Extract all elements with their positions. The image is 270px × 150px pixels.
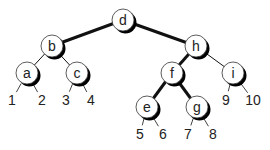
leaf-label: 1 bbox=[8, 92, 16, 108]
tree-node-g: g bbox=[186, 96, 211, 121]
leaf-edge-e-5 bbox=[142, 119, 144, 126]
leaf-label: 2 bbox=[38, 92, 46, 108]
leaf-layer: 12345678910 bbox=[8, 92, 261, 142]
node-label: i bbox=[231, 65, 234, 81]
leaf-edge-i-9 bbox=[228, 85, 230, 92]
node-label: c bbox=[74, 65, 81, 81]
tree-node-e: e bbox=[136, 96, 161, 121]
tree-node-d: d bbox=[112, 9, 137, 34]
node-label: h bbox=[192, 38, 200, 54]
node-layer: dbhacfieg bbox=[16, 9, 247, 121]
node-label: e bbox=[143, 99, 151, 115]
tree-diagram: dbhacfieg 12345678910 bbox=[0, 0, 270, 150]
leaf-edge-layer bbox=[16, 83, 247, 127]
leaf-label: 10 bbox=[245, 92, 261, 108]
leaf-label: 7 bbox=[184, 126, 192, 142]
leaf-label: 4 bbox=[87, 92, 95, 108]
node-label: g bbox=[193, 99, 201, 115]
leaf-label: 9 bbox=[222, 92, 230, 108]
node-label: f bbox=[170, 65, 174, 81]
node-label: b bbox=[48, 38, 56, 54]
leaf-label: 5 bbox=[136, 126, 144, 142]
leaf-edge-a-1 bbox=[16, 83, 21, 92]
node-label: d bbox=[119, 12, 127, 28]
leaf-edge-g-7 bbox=[191, 118, 193, 125]
leaf-label: 3 bbox=[62, 92, 70, 108]
node-label: a bbox=[23, 65, 31, 81]
tree-node-a: a bbox=[16, 62, 41, 87]
tree-node-c: c bbox=[66, 62, 91, 87]
leaf-label: 8 bbox=[209, 126, 217, 142]
leaf-edge-c-3 bbox=[69, 84, 72, 92]
tree-canvas: dbhacfieg 12345678910 bbox=[0, 0, 270, 150]
leaf-label: 6 bbox=[159, 126, 167, 142]
edge-layer bbox=[27, 20, 233, 107]
tree-node-i: i bbox=[222, 62, 247, 87]
tree-node-b: b bbox=[41, 35, 66, 60]
